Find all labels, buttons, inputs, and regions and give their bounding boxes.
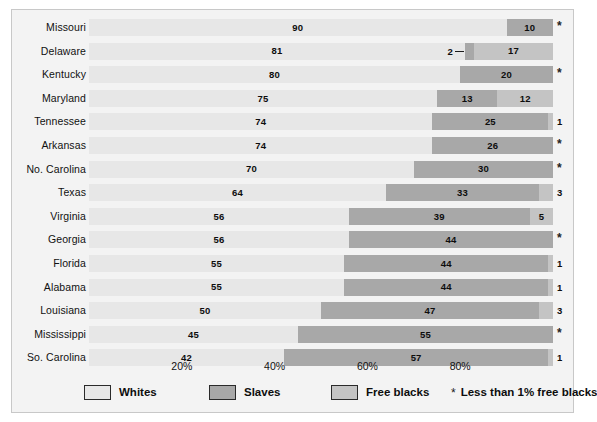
bar-track: 5544 (89, 279, 553, 296)
row-label-delaware: Delaware (11, 43, 86, 60)
segment-slaves: 33 (386, 184, 539, 201)
footnote-asterisk: * (557, 231, 574, 248)
footnote-asterisk-icon: * (451, 387, 456, 399)
bar-track: 7426 (89, 137, 553, 154)
trailing-value-free-blacks: 3 (557, 302, 574, 319)
bar-row: Texas64333 (11, 184, 574, 201)
segment-value-slaves: 26 (487, 141, 498, 151)
row-label-mississippi: Mississippi (11, 326, 86, 343)
bar-row: Missouri9010* (11, 19, 574, 36)
segment-value-whites: 74 (255, 141, 266, 151)
segment-slaves: 39 (349, 208, 530, 225)
footnote-asterisk: * (557, 19, 574, 36)
segment-value-free-blacks: 12 (520, 94, 531, 104)
legend-item-free-blacks[interactable]: Free blacks (331, 383, 429, 401)
segment-free-blacks (548, 255, 553, 272)
legend-item-slaves[interactable]: Slaves (209, 383, 280, 401)
segment-value-whites: 74 (255, 117, 266, 127)
bar-track: 81217 (89, 43, 553, 60)
bar-track: 5544 (89, 255, 553, 272)
bar-row: No. Carolina7030* (11, 161, 574, 178)
trailing-value-free-blacks: 1 (557, 255, 574, 272)
segment-value-whites: 64 (232, 188, 243, 198)
segment-value-whites: 50 (200, 306, 211, 316)
bar-row: Delaware81217 (11, 43, 574, 60)
segment-value-whites: 56 (213, 235, 224, 245)
segment-whites: 74 (89, 137, 432, 154)
segment-value-whites: 55 (211, 259, 222, 269)
legend-item-whites[interactable]: Whites (84, 383, 157, 401)
segment-whites: 90 (89, 19, 507, 36)
legend-label: Whites (119, 386, 157, 398)
chart-legend: WhitesSlavesFree blacks*Less than 1% fre… (11, 383, 574, 409)
bar-track: 5644 (89, 231, 553, 248)
row-label-alabama: Alabama (11, 279, 86, 296)
bar-track: 7425 (89, 113, 553, 130)
segment-value-slaves: 33 (457, 188, 468, 198)
x-axis: 20%40%60%80% (11, 360, 574, 377)
bar-row: Virginia56395 (11, 208, 574, 225)
segment-slaves: 44 (349, 231, 553, 248)
segment-whites: 56 (89, 231, 349, 248)
segment-slaves: 13 (437, 90, 497, 107)
segment-free-blacks (548, 113, 553, 130)
segment-callout-slaves: 2 (431, 43, 453, 60)
trailing-value-free-blacks: 1 (557, 279, 574, 296)
segment-slaves: 10 (507, 19, 553, 36)
segment-whites: 74 (89, 113, 432, 130)
segment-value-whites: 80 (269, 70, 280, 80)
row-label-virginia: Virginia (11, 208, 86, 225)
segment-slaves: 26 (432, 137, 553, 154)
segment-slaves: 25 (432, 113, 548, 130)
segment-value-whites: 70 (246, 164, 257, 174)
segment-whites: 55 (89, 279, 344, 296)
bar-track: 56395 (89, 208, 553, 225)
segment-value-whites: 90 (292, 23, 303, 33)
callout-leader-line (455, 51, 464, 53)
legend-footnote: *Less than 1% free blacks (451, 383, 597, 401)
x-axis-tick-20: 20% (171, 360, 192, 372)
segment-slaves (465, 43, 474, 60)
bar-row: Georgia5644* (11, 231, 574, 248)
segment-value-slaves: 44 (441, 259, 452, 269)
bar-track: 751312 (89, 90, 553, 107)
segment-slaves: 30 (414, 161, 553, 178)
bar-row: Louisiana50473 (11, 302, 574, 319)
segment-value-slaves: 47 (425, 306, 436, 316)
segment-whites: 81 (89, 43, 465, 60)
bar-track: 4555 (89, 326, 553, 343)
row-label-louisiana: Louisiana (11, 302, 86, 319)
row-label-texas: Texas (11, 184, 86, 201)
segment-whites: 80 (89, 66, 460, 83)
bar-row: Tennessee74251 (11, 113, 574, 130)
segment-slaves: 20 (460, 66, 553, 83)
row-label-kentucky: Kentucky (11, 66, 86, 83)
segment-free-blacks (539, 184, 553, 201)
segment-value-slaves: 44 (441, 282, 452, 292)
row-label-missouri: Missouri (11, 19, 86, 36)
row-label-tennessee: Tennessee (11, 113, 86, 130)
x-axis-tick-60: 60% (357, 360, 378, 372)
segment-value-slaves: 44 (445, 235, 456, 245)
row-label-maryland: Maryland (11, 90, 86, 107)
segment-value-whites: 56 (213, 212, 224, 222)
segment-value-slaves: 20 (501, 70, 512, 80)
segment-value-whites: 45 (188, 330, 199, 340)
trailing-value-free-blacks: 1 (557, 113, 574, 130)
segment-whites: 45 (89, 326, 298, 343)
bar-track: 7030 (89, 161, 553, 178)
segment-value-slaves: 10 (524, 23, 535, 33)
footnote-asterisk: * (557, 161, 574, 178)
footnote-text: Less than 1% free blacks (461, 386, 597, 398)
segment-value-slaves: 30 (478, 164, 489, 174)
segment-slaves: 44 (344, 279, 548, 296)
row-label-florida: Florida (11, 255, 86, 272)
legend-label: Slaves (244, 386, 280, 398)
segment-value-slaves: 39 (434, 212, 445, 222)
segment-value-slaves: 25 (485, 117, 496, 127)
segment-free-blacks (548, 279, 553, 296)
bar-track: 5047 (89, 302, 553, 319)
segment-whites: 70 (89, 161, 414, 178)
legend-swatch-icon (84, 385, 111, 400)
bar-row: Mississippi4555* (11, 326, 574, 343)
